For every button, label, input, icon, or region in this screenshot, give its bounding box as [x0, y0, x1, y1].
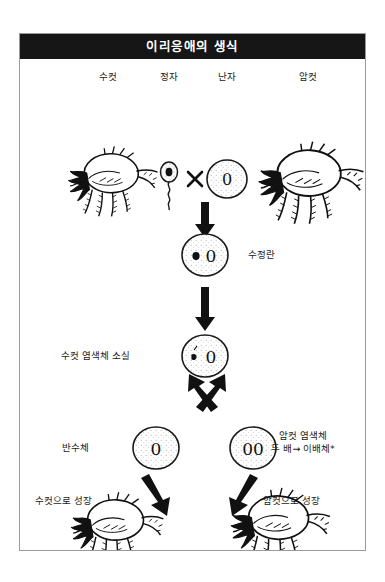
egg-cell-illustration: 0 — [207, 160, 247, 198]
label-female-chromosome-double-line1: 암컷 염색체 — [279, 430, 327, 442]
arrow-to-adult-male — [141, 474, 170, 516]
diploid-cell-illustration: 00 — [230, 427, 276, 469]
diploid-chromosome-mark: 00 — [242, 439, 264, 459]
post-loss-chromosome-mark: 0 — [206, 347, 217, 367]
female-mite-illustration — [259, 142, 364, 224]
figure-title: 이리응애의 생식 — [20, 34, 365, 59]
haploid-chromosome-mark: 0 — [151, 439, 162, 459]
label-female: 암컷 — [299, 71, 317, 83]
zygote-cell-illustration: 0 — [182, 234, 228, 276]
label-sperm: 정자 — [160, 71, 178, 83]
label-fertilized-egg: 수정란 — [248, 249, 275, 261]
title-bar: 이리응애의 생식 — [20, 34, 365, 59]
diagram-svg: 0 — [20, 59, 365, 550]
label-male: 수컷 — [99, 71, 117, 83]
figure-panel: 이리응애의 생식 — [19, 33, 366, 551]
label-haploid: 반수체 — [62, 442, 89, 454]
label-male-chromosome-loss: 수컷 염색체 소실 — [61, 350, 130, 362]
label-egg: 난자 — [218, 71, 236, 83]
egg-chromosome-mark: 0 — [222, 170, 232, 189]
post-loss-cell-illustration: 0 — [182, 335, 228, 377]
label-grows-into-male: 수컷으로 성장 — [35, 495, 92, 507]
label-grows-into-female: 암컷으로 성장 — [263, 495, 320, 507]
haploid-cell-illustration: 0 — [133, 427, 179, 469]
label-female-chromosome-double-line2: 두 배→ 이배체* — [271, 443, 335, 455]
cross-symbol-mark — [188, 172, 202, 186]
arrow-down-to-zygote — [195, 202, 215, 238]
zygote-chromosome-mark: 0 — [206, 246, 217, 266]
sperm-cell-illustration — [161, 162, 178, 210]
diagram-canvas: 0 — [20, 59, 365, 550]
arrow-down-to-post-loss — [195, 287, 215, 331]
male-mite-illustration — [68, 146, 157, 216]
